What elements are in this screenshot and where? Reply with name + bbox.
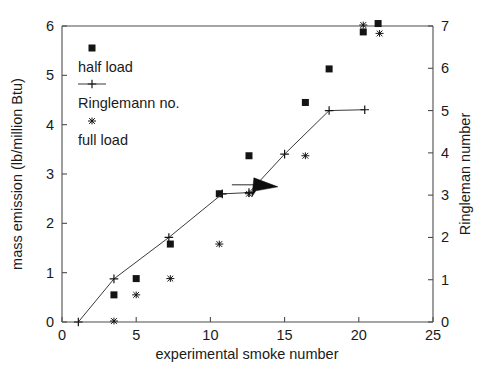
y2-tick-label: 6 [441, 60, 449, 76]
chart-legend: half loadRinglemann no.full load [78, 45, 180, 149]
data-point-square [167, 241, 174, 248]
y-axis-title: mass emission (lb/million Btu) [9, 78, 25, 270]
y2-tick-label: 0 [441, 314, 449, 330]
data-point-square [89, 45, 96, 52]
x-tick-label: 15 [277, 327, 293, 343]
arrow-pointer-icon [252, 178, 278, 197]
chart-figure: 0510152025012345601234567 half loadRingl… [0, 0, 484, 375]
data-point-star [132, 291, 140, 298]
y-tick-label: 5 [46, 67, 54, 83]
data-point-plus [360, 105, 369, 114]
data-point-star [376, 30, 384, 37]
x-tick-label: 20 [351, 327, 367, 343]
y-tick-label: 2 [46, 215, 54, 231]
chart-annotations [232, 178, 278, 197]
data-point-square [326, 65, 333, 72]
data-point-star [215, 241, 223, 248]
data-point-square [375, 20, 382, 27]
legend-entry-ringlemann-no: Ringlemann no. [78, 80, 180, 111]
data-point-star [359, 22, 367, 29]
y2-tick-label: 3 [441, 187, 449, 203]
y-tick-label: 3 [46, 166, 54, 182]
data-point-square [133, 275, 140, 282]
y2-tick-label: 7 [441, 18, 449, 34]
scatter-chart: 0510152025012345601234567 half loadRingl… [0, 0, 484, 375]
y2-axis-title: Ringleman number [457, 113, 473, 236]
x-tick-label: 5 [132, 327, 140, 343]
y-tick-label: 0 [46, 314, 54, 330]
y2-tick-label: 2 [441, 229, 449, 245]
x-tick-label: 0 [58, 327, 66, 343]
series-full-load [110, 22, 384, 325]
y2-tick-label: 4 [441, 145, 449, 161]
data-point-star [110, 318, 118, 325]
legend-entry-full-load: full load [78, 118, 128, 148]
x-tick-label: 10 [202, 327, 218, 343]
data-point-square [360, 28, 367, 35]
mouse-cursor [232, 178, 278, 197]
data-point-square [110, 291, 117, 298]
y2-tick-label: 1 [441, 272, 449, 288]
data-point-square [302, 99, 309, 106]
data-point-star [88, 118, 96, 125]
series-half-load [110, 20, 381, 298]
legend-label: Ringlemann no. [78, 95, 180, 111]
legend-entry-half-load: half load [78, 45, 133, 76]
y-tick-label: 6 [46, 18, 54, 34]
legend-label: full load [78, 132, 128, 148]
data-point-square [245, 152, 252, 159]
legend-label: half load [78, 59, 133, 75]
data-point-plus [88, 80, 97, 89]
x-tick-label: 25 [425, 327, 441, 343]
x-axis-title: experimental smoke number [156, 346, 339, 362]
data-point-star [166, 275, 174, 282]
y-tick-label: 1 [46, 265, 54, 281]
y2-tick-label: 5 [441, 103, 449, 119]
y-tick-label: 4 [46, 117, 54, 133]
data-point-star [301, 152, 309, 159]
